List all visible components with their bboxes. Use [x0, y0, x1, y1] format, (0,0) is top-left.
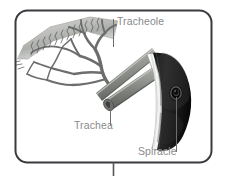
figure-container: Tracheole Trachea Spiracle	[0, 0, 227, 176]
tracheal-system-diagram	[0, 0, 227, 176]
label-tracheole: Tracheole	[117, 16, 164, 27]
label-trachea: Trachea	[74, 120, 113, 131]
label-spiracle: Spiracle	[138, 146, 177, 157]
